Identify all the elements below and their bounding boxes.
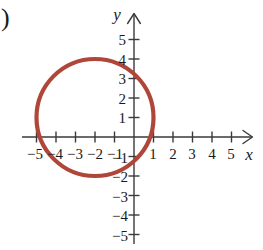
stray-parenthesis: ): [1, 3, 10, 32]
y-axis-group: [128, 14, 141, 245]
coordinate-plane-graph: −5 −4 −3 −2 −1 1 2 3 4 5 5 4 3 2 1 −1 −2…: [0, 0, 263, 250]
y-tick-label--5: −5: [112, 228, 128, 244]
figure-container: −5 −4 −3 −2 −1 1 2 3 4 5 5 4 3 2 1 −1 −2…: [0, 0, 263, 250]
x-tick-label-2: 2: [169, 146, 177, 162]
y-tick-label--1: −1: [112, 150, 128, 166]
x-axis-label: x: [244, 145, 253, 164]
x-tick-label--3: −3: [67, 146, 83, 162]
x-tick-label-5: 5: [227, 146, 235, 162]
y-tick-label--3: −3: [112, 189, 128, 205]
x-tick-label--2: −2: [87, 146, 103, 162]
y-tick-label-4: 4: [119, 52, 127, 68]
y-tick-label-5: 5: [119, 32, 127, 48]
x-tick-label-3: 3: [188, 146, 196, 162]
x-tick-label--4: −4: [47, 146, 63, 162]
x-axis-tick-labels: −5 −4 −3 −2 −1 1 2 3 4 5: [27, 146, 235, 162]
y-tick-label--2: −2: [112, 169, 128, 185]
x-tick-label-4: 4: [208, 146, 216, 162]
x-tick-label--5: −5: [27, 146, 43, 162]
y-tick-label-1: 1: [119, 110, 127, 126]
y-tick-label--4: −4: [112, 208, 128, 224]
y-tick-label-3: 3: [119, 71, 127, 87]
x-tick-label-1: 1: [149, 146, 157, 162]
y-axis-label: y: [111, 5, 121, 24]
y-tick-label-2: 2: [119, 91, 127, 107]
